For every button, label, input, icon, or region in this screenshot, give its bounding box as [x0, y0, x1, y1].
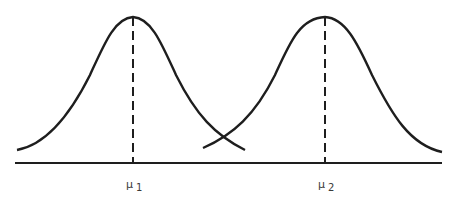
mean-label-2: μ2 [318, 178, 334, 191]
mu-symbol: μ [126, 178, 133, 191]
distribution-diagram [0, 0, 458, 209]
mu-symbol: μ [318, 178, 325, 191]
curve-distribution-1 [17, 17, 245, 150]
curve-distribution-2 [203, 17, 442, 152]
subscript: 2 [328, 182, 334, 193]
mean-label-1: μ1 [126, 178, 142, 191]
subscript: 1 [136, 182, 142, 193]
